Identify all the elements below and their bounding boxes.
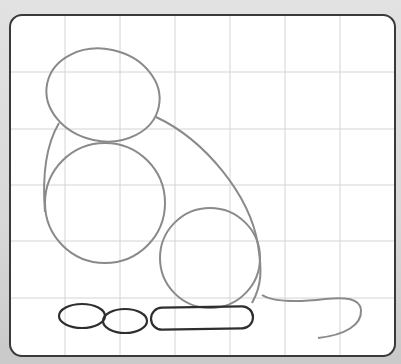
drawing-canvas bbox=[0, 0, 401, 364]
